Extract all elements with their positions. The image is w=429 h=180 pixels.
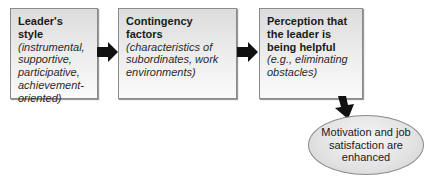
box-title: Perception that the leader is being help… (267, 15, 355, 53)
box-description: (characteristics of subordinates, work e… (126, 41, 229, 79)
box-description: (instrumental, supportive, participative… (18, 41, 90, 105)
box-description: (e.g., eliminating obstacles) (267, 53, 355, 79)
leaders-style-box: Leader's style (instrumental, supportive… (10, 8, 98, 99)
outcome-ellipse: Motivation and job satisfaction are enha… (308, 115, 424, 175)
arrow-right-icon (237, 42, 259, 62)
box-title: Leader's style (18, 15, 90, 41)
perception-box: Perception that the leader is being help… (259, 8, 363, 99)
outcome-text: Motivation and job satisfaction are enha… (319, 126, 413, 164)
arrow-right-icon (97, 42, 119, 62)
contingency-factors-box: Contingency factors (characteristics of … (118, 8, 237, 99)
box-title: Contingency factors (126, 15, 229, 41)
